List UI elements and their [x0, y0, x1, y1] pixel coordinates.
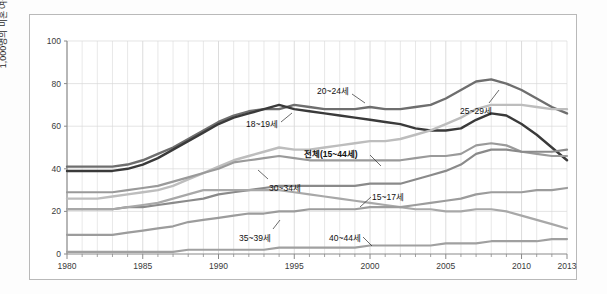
y-tick-80: 80 [39, 79, 61, 89]
series-label-6: 35~39세 [239, 231, 271, 243]
series-label-2: 18~19세 [246, 117, 278, 129]
series-label-1: 25~29세 [460, 104, 492, 116]
x-tick-2013: 2013 [552, 261, 582, 271]
series-line-7 [67, 239, 567, 252]
y-tick-0: 0 [39, 249, 61, 259]
x-tick-2005: 2005 [431, 261, 461, 271]
x-tick-1985: 1985 [128, 261, 158, 271]
y-tick-40: 40 [39, 164, 61, 174]
x-tick-2000: 2000 [355, 261, 385, 271]
series-label-3: 전체(15~44세) [304, 147, 358, 159]
y-tick-100: 100 [39, 36, 61, 46]
series-label-5: 15~17세 [372, 190, 404, 202]
x-tick-1990: 1990 [204, 261, 234, 271]
y-tick-20: 20 [39, 206, 61, 216]
series-label-7: 40~44세 [329, 231, 361, 243]
x-tick-1980: 1980 [52, 261, 82, 271]
series-label-0: 20~24세 [317, 84, 349, 96]
x-tick-2010: 2010 [507, 261, 537, 271]
chart-figure: 1,000명의 미혼 여성당 출생 수 020406080100 1980198… [0, 0, 607, 294]
y-tick-60: 60 [39, 121, 61, 131]
series-label-4: 30~34세 [269, 181, 301, 193]
x-tick-1995: 1995 [279, 261, 309, 271]
series-layer [67, 79, 567, 252]
